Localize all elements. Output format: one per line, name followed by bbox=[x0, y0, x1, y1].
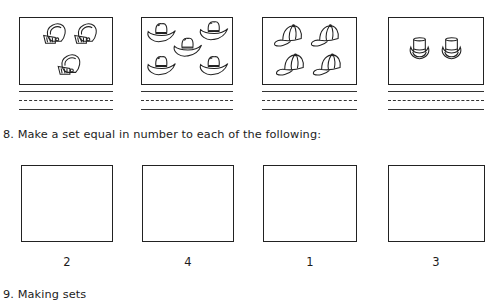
top-hat-icon bbox=[410, 38, 429, 59]
draw-box-3-label: 1 bbox=[295, 255, 325, 269]
cowboy-hat-icon bbox=[200, 57, 227, 75]
draw-box-2[interactable] bbox=[142, 165, 234, 242]
draw-box-1-label: 2 bbox=[52, 255, 82, 269]
answer-line-top bbox=[262, 91, 357, 92]
answer-line-middle bbox=[262, 100, 357, 101]
answer-line-middle bbox=[141, 100, 233, 101]
answer-line-top bbox=[19, 91, 113, 92]
football-helmet-icon bbox=[58, 55, 80, 74]
answer-line-top bbox=[388, 91, 484, 92]
baseball-cap-icon bbox=[311, 25, 338, 46]
answer-lines-helmets[interactable] bbox=[19, 91, 113, 111]
draw-box-3[interactable] bbox=[263, 165, 357, 242]
draw-box-4-label: 3 bbox=[421, 255, 451, 269]
cowboy-hat-icon bbox=[174, 38, 201, 56]
baseball-cap-group-icon bbox=[263, 18, 356, 84]
picture-set-helmets bbox=[19, 17, 113, 85]
exercise-9-title: 9. Making sets bbox=[3, 288, 86, 301]
answer-lines-cowboy-hats[interactable] bbox=[141, 91, 233, 111]
football-helmet-icon bbox=[44, 24, 66, 43]
answer-lines-baseball-caps[interactable] bbox=[262, 91, 357, 111]
cowboy-hat-group-icon bbox=[142, 18, 232, 84]
picture-set-cowboy-hats bbox=[141, 17, 233, 85]
football-helmet-group-icon bbox=[20, 18, 112, 84]
answer-line-middle bbox=[388, 100, 484, 101]
answer-line-bottom bbox=[141, 109, 233, 110]
football-helmet-icon bbox=[75, 24, 97, 43]
answer-lines-top-hats[interactable] bbox=[388, 91, 484, 111]
picture-set-baseball-caps bbox=[262, 17, 357, 85]
cowboy-hat-icon bbox=[200, 22, 227, 40]
answer-line-bottom bbox=[388, 109, 484, 110]
answer-line-bottom bbox=[19, 109, 113, 110]
top-hat-icon bbox=[442, 38, 461, 59]
draw-box-2-label: 4 bbox=[173, 255, 203, 269]
baseball-cap-icon bbox=[276, 54, 303, 75]
top-hat-group-icon bbox=[389, 18, 483, 84]
draw-box-4[interactable] bbox=[388, 165, 485, 242]
baseball-cap-icon bbox=[313, 54, 340, 75]
exercise-8-instruction: 8. Make a set equal in number to each of… bbox=[3, 128, 321, 141]
answer-line-bottom bbox=[262, 109, 357, 110]
cowboy-hat-icon bbox=[148, 24, 175, 42]
draw-box-1[interactable] bbox=[21, 165, 113, 242]
answer-line-top bbox=[141, 91, 233, 92]
cowboy-hat-icon bbox=[148, 57, 175, 75]
answer-line-middle bbox=[19, 100, 113, 101]
picture-set-top-hats bbox=[388, 17, 484, 85]
baseball-cap-icon bbox=[275, 25, 302, 46]
